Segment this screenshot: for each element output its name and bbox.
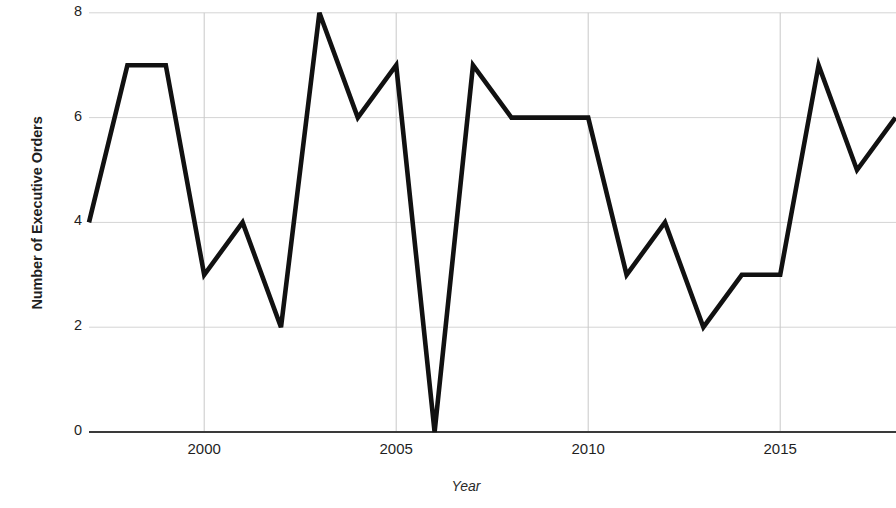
- horizontal-gridlines: [89, 13, 896, 327]
- y-tick-label-4: 4: [56, 212, 82, 228]
- x-tick-label-2015: 2015: [740, 440, 820, 457]
- x-tick-label-2005: 2005: [356, 440, 436, 457]
- x-tick-label-2000: 2000: [164, 440, 244, 457]
- y-tick-label-0: 0: [56, 422, 82, 438]
- y-tick-label-6: 6: [56, 108, 82, 124]
- y-tick-label-2: 2: [56, 317, 82, 333]
- plot-area: [0, 0, 896, 508]
- x-axis-label-container: Year: [0, 478, 896, 494]
- line-chart: Number of Executive Orders 02468 2000200…: [0, 0, 896, 508]
- y-tick-label-8: 8: [56, 3, 82, 19]
- x-tick-label-2010: 2010: [548, 440, 628, 457]
- x-axis-label: Year: [452, 478, 481, 494]
